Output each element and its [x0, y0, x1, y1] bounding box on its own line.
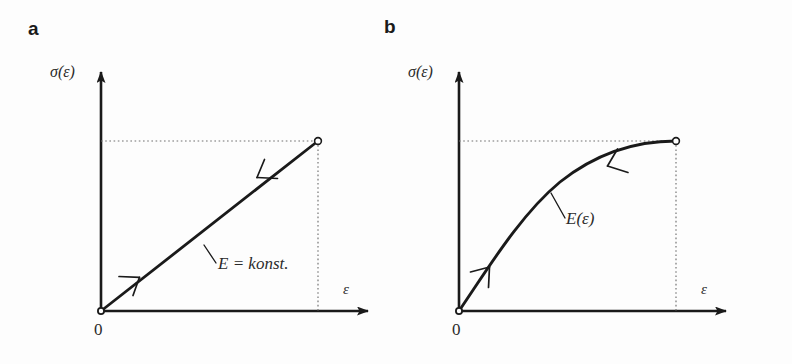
panel-b-curve-annotation: E(ε) [566, 209, 594, 229]
panel-a-annotation-leader [204, 245, 216, 263]
panel-b-end-point-marker [673, 138, 680, 145]
panel-a-curve-annotation: E = konst. [218, 254, 289, 274]
panel-a-y-axis-label: σ(ε) [50, 63, 75, 81]
panel-a-stress-strain-line [101, 141, 318, 311]
panel-a-end-point-marker [315, 138, 322, 145]
panel-a-loading-arrow [119, 277, 140, 296]
panel-b-axes [459, 72, 726, 311]
panel-a-origin-marker [98, 308, 104, 314]
panel-b-annotation-leader [551, 193, 565, 218]
panel-b-origin-marker [456, 308, 462, 314]
panel-b-y-axis-label: σ(ε) [408, 63, 433, 81]
panel-b-x-axis-label: ε [701, 281, 707, 298]
stress-strain-figure: a b [0, 0, 792, 364]
panel-a-x-axis-label: ε [343, 281, 349, 298]
panel-a-axes [101, 72, 368, 311]
panel-b-origin-label: 0 [452, 320, 461, 340]
panel-a-plot [0, 0, 792, 364]
panel-a-origin-label: 0 [94, 320, 103, 340]
